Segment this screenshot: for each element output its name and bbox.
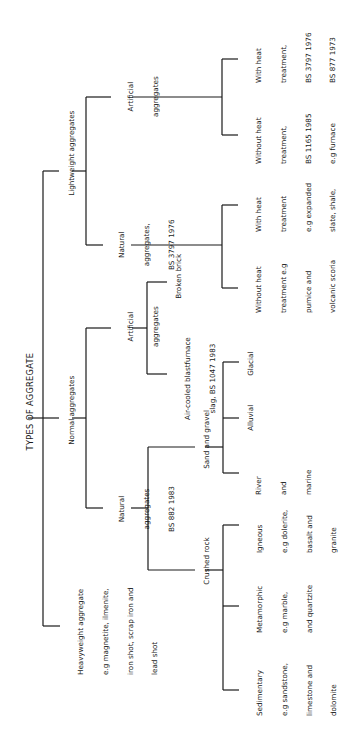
title-text: TYPES OF AGGREGATE bbox=[25, 353, 35, 451]
node-text: e.g furnace bbox=[329, 113, 337, 164]
node-text: e.g magnetite, ilmenite, bbox=[102, 587, 110, 675]
node-text: marine bbox=[305, 470, 313, 495]
node-lw-artificial-aggregates: Artificial aggregates bbox=[111, 76, 177, 117]
node-lw-art-with-heat: With heat treatment, BS 3797 1976 BS 877… bbox=[239, 29, 340, 83]
node-text: volcanic scoria bbox=[329, 260, 337, 313]
node-heavyweight-aggregate: Heavyweight aggregate e.g magnetite, ilm… bbox=[61, 587, 176, 675]
node-text: aggregates, bbox=[143, 219, 151, 270]
node-text: dolomite bbox=[330, 663, 338, 716]
node-text: Sand and gravel bbox=[202, 410, 211, 469]
node-sedimentary: Sedimentary e.g sandstone, limestone and… bbox=[240, 663, 340, 716]
node-text: Artificial bbox=[127, 306, 135, 347]
node-text: limestone and bbox=[306, 663, 314, 716]
node-text: and bbox=[280, 470, 288, 495]
node-text: treatment, bbox=[280, 29, 288, 83]
node-text: BS 1165 1985 bbox=[305, 113, 313, 164]
node-text: slate, shale, bbox=[329, 174, 337, 232]
node-text: e.g expanded bbox=[305, 174, 313, 232]
node-text: BS 882 1983 bbox=[168, 486, 176, 532]
node-text: treatment e.g bbox=[280, 260, 288, 313]
node-text: treatment bbox=[280, 174, 288, 232]
node-text: and quartzite bbox=[306, 585, 314, 633]
node-lw-art-without-heat: Without heat treatment, BS 1165 1985 e.g… bbox=[239, 113, 340, 164]
node-text: aggregates bbox=[152, 306, 160, 347]
node-text: Without heat bbox=[255, 260, 263, 313]
node-text: Broken brick bbox=[174, 254, 183, 299]
node-metamorphic: Metamorphic e.g marble, and quartzite bbox=[240, 585, 330, 633]
node-text: Metamorphic bbox=[256, 585, 264, 633]
node-text: Glacial bbox=[246, 352, 255, 376]
diagram-title: TYPES OF AGGREGATE bbox=[18, 353, 43, 462]
node-text: With heat bbox=[255, 29, 263, 83]
node-text: Sedimentary bbox=[256, 663, 264, 716]
node-text: Alluvial bbox=[246, 405, 255, 431]
node-text: BS 3797 1976 bbox=[305, 29, 313, 83]
node-text: Without heat bbox=[255, 113, 263, 164]
node-text: Lightweight aggregates bbox=[67, 111, 76, 196]
aggregate-types-tree-diagram: TYPES OF AGGREGATE Lightweight aggregate… bbox=[0, 0, 340, 734]
node-blastfurnace-slag: Air-cooled blastfurnace slag, BS 1047 19… bbox=[168, 337, 234, 420]
node-sand-and-gravel: Sand and gravel bbox=[195, 410, 220, 478]
node-normal-artificial-aggregates: Artificial aggregates bbox=[111, 306, 177, 347]
node-text: With heat bbox=[255, 174, 263, 232]
node-alluvial: Alluvial bbox=[239, 405, 264, 440]
node-text: Artificial bbox=[127, 76, 135, 117]
node-normal-aggregates: Normal aggregates bbox=[60, 376, 85, 454]
node-text: Crushed rock bbox=[202, 537, 211, 584]
node-text: granite bbox=[330, 510, 338, 553]
node-glacial: Glacial bbox=[239, 352, 264, 385]
node-text: Igneous bbox=[256, 510, 264, 553]
node-river-and-marine: River and marine bbox=[239, 470, 329, 495]
node-text: BS 877 1973 bbox=[329, 29, 337, 83]
node-text: aggregates bbox=[152, 76, 160, 117]
node-text: treatment, bbox=[280, 113, 288, 164]
node-text: iron shot, scrap iron and bbox=[127, 587, 135, 675]
node-text: e.g marble, bbox=[281, 585, 289, 633]
node-igneous: Igneous e.g dolerite, basalt and granite bbox=[240, 510, 340, 553]
node-text: aggregates bbox=[143, 486, 151, 532]
node-text: basalt and bbox=[306, 510, 314, 553]
node-text: River bbox=[255, 470, 263, 495]
node-text: e.g sandstone, bbox=[281, 663, 289, 716]
node-normal-natural-aggregates: Natural aggregates BS 882 1983 bbox=[102, 486, 192, 532]
node-text: e.g dolerite, bbox=[281, 510, 289, 553]
node-broken-brick: Broken brick bbox=[167, 254, 192, 308]
node-text: Normal aggregates bbox=[67, 376, 76, 445]
node-text: lead shot bbox=[151, 587, 159, 675]
node-text: Heavyweight aggregate bbox=[77, 587, 85, 675]
node-text: Natural bbox=[118, 219, 126, 270]
node-text: pumice and bbox=[305, 260, 313, 313]
node-lw-nat-with-heat: With heat treatment e.g expanded slate, … bbox=[239, 174, 340, 232]
node-text: slag, BS 1047 1983 bbox=[209, 337, 217, 420]
node-text: Natural bbox=[118, 486, 126, 532]
node-crushed-rock: Crushed rock bbox=[195, 537, 220, 594]
node-lightweight-aggregates: Lightweight aggregates bbox=[60, 111, 85, 205]
node-text: Air-cooled blastfurnace bbox=[184, 337, 192, 420]
node-lw-nat-without-heat: Without heat treatment e.g pumice and vo… bbox=[239, 260, 340, 313]
